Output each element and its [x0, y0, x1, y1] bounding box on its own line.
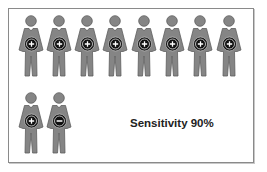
minus-badge-icon — [53, 114, 67, 128]
person-figure-positive — [158, 14, 186, 78]
person-icon — [73, 14, 101, 78]
person-figure-positive — [17, 91, 45, 155]
person-icon — [17, 91, 45, 155]
plus-badge-icon — [166, 37, 180, 51]
person-figure-positive — [215, 14, 243, 78]
person-figure-positive — [45, 14, 73, 78]
person-icon — [17, 14, 45, 78]
person-icon — [158, 14, 186, 78]
person-icon — [186, 14, 214, 78]
person-icon — [101, 14, 129, 78]
plus-badge-icon — [138, 37, 152, 51]
person-icon — [130, 14, 158, 78]
figure-grid — [0, 0, 267, 172]
plus-badge-icon — [25, 37, 39, 51]
person-icon — [215, 14, 243, 78]
plus-badge-icon — [81, 37, 95, 51]
plus-badge-icon — [53, 37, 67, 51]
person-figure-positive — [130, 14, 158, 78]
plus-badge-icon — [25, 114, 39, 128]
person-figure-positive — [73, 14, 101, 78]
person-icon — [45, 91, 73, 155]
person-figure-positive — [186, 14, 214, 78]
sensitivity-caption: Sensitivity 90% — [130, 117, 214, 129]
plus-badge-icon — [109, 37, 123, 51]
person-figure-negative — [45, 91, 73, 155]
person-figure-positive — [17, 14, 45, 78]
person-figure-positive — [101, 14, 129, 78]
person-icon — [45, 14, 73, 78]
plus-badge-icon — [194, 37, 208, 51]
plus-badge-icon — [223, 37, 237, 51]
